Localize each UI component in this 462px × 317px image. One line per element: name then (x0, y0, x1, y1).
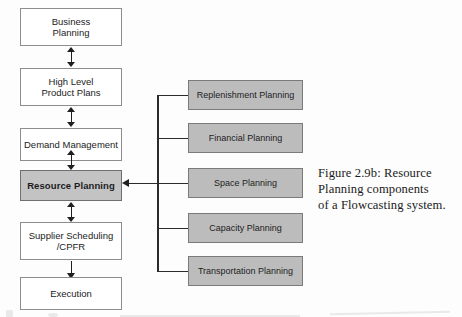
scan-artifact (330, 311, 450, 316)
component-box-space-planning: Space Planning (188, 168, 303, 198)
process-box-line1: Resource Planning (27, 180, 115, 191)
arrow-head-left-icon (122, 179, 129, 187)
figure-caption-line-1: Figure 2.9b: Resource (318, 165, 446, 181)
component-branch-replenishment (157, 95, 188, 97)
component-box-financial-planning: Financial Planning (188, 123, 303, 153)
component-box-replenishment-planning: Replenishment Planning (188, 80, 303, 110)
process-box-line2: Product Plans (41, 87, 100, 98)
process-box-supplier-scheduling: Supplier Scheduling /CPFR (20, 222, 122, 260)
connector-demand-to-resource (66, 150, 77, 170)
component-box-label: Financial Planning (209, 133, 283, 144)
process-box-line1: Demand Management (24, 139, 118, 150)
figure-caption: Figure 2.9b: Resource Planning component… (318, 165, 446, 213)
component-bus-to-resource-planning-line (128, 183, 158, 185)
component-box-label: Space Planning (214, 178, 277, 189)
connector-business-to-highlevel (66, 47, 77, 67)
connector-highlevel-to-demand (66, 107, 77, 127)
process-box-line1: Supplier Scheduling (29, 230, 114, 241)
component-branch-financial (157, 138, 188, 140)
figure-canvas: Business Planning High Level Product Pla… (0, 0, 462, 317)
process-box-line1: Business (52, 16, 91, 27)
scan-artifact (6, 310, 13, 317)
component-box-label: Capacity Planning (209, 223, 282, 234)
process-box-resource-planning: Resource Planning (20, 170, 122, 201)
arrow-head-down-icon (67, 122, 75, 127)
component-box-transportation-planning: Transportation Planning (188, 256, 303, 286)
process-box-line2: Planning (52, 27, 91, 38)
process-box-high-level-product-plans: High Level Product Plans (20, 68, 122, 106)
component-branch-space (157, 183, 188, 185)
process-box-execution: Execution (20, 277, 122, 310)
process-box-line2: /CPFR (29, 241, 114, 252)
component-box-capacity-planning: Capacity Planning (188, 213, 303, 243)
scan-artifact (48, 313, 58, 317)
arrow-head-down-icon (67, 62, 75, 67)
component-box-label: Transportation Planning (198, 266, 293, 277)
process-box-line1: High Level (41, 76, 100, 87)
connector-resource-to-supplier (66, 202, 77, 222)
process-box-line1: Execution (50, 288, 92, 299)
component-branch-transportation (157, 271, 188, 273)
process-box-business-planning: Business Planning (20, 8, 122, 46)
figure-caption-line-3: of a Flowcasting system. (318, 197, 446, 213)
figure-caption-line-2: Planning components (318, 181, 446, 197)
component-box-label: Replenishment Planning (197, 90, 295, 101)
component-branch-capacity (157, 228, 188, 230)
